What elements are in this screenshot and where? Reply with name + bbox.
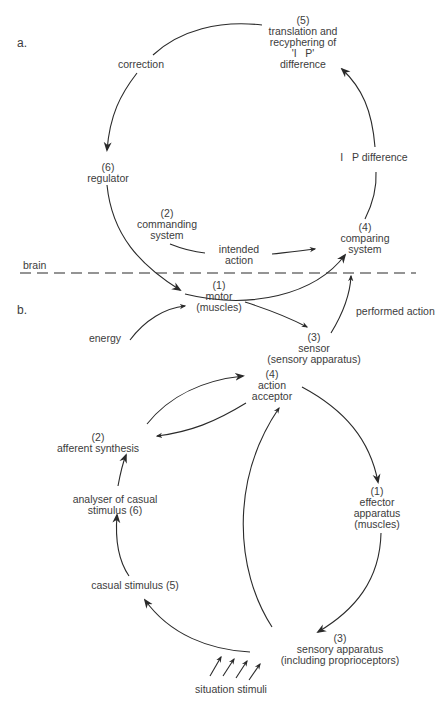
panel-b-label: b.	[17, 303, 27, 317]
arc-correction-to-regulator	[107, 73, 137, 150]
node-energy: energy	[89, 333, 121, 344]
arc-energy-to-motor	[130, 306, 185, 340]
node-motor: (1) motor (muscles)	[196, 280, 242, 313]
node-commanding-system: (2) commanding system	[137, 208, 197, 241]
stimulus-arrow-2	[223, 659, 234, 676]
arc-sensory-to-acceptor	[243, 408, 279, 627]
arc-commanding-to-intended	[170, 244, 205, 253]
node-action-acceptor: (4) action acceptor	[252, 369, 292, 402]
node-afferent-synthesis: (2) afferent synthesis	[57, 432, 139, 454]
node-brain: brain	[23, 260, 46, 271]
arc-casual-to-analyser	[116, 515, 129, 576]
stimulus-arrow-1	[210, 657, 221, 676]
arc-acceptor-to-effector	[302, 387, 378, 482]
node-sensor: (3) sensor (sensory apparatus)	[267, 332, 360, 365]
node-translation: (5) translation and recyphering of 'I P'…	[269, 15, 338, 70]
arc-comparing-to-ipdiff	[365, 172, 376, 219]
diagram-canvas	[0, 0, 444, 705]
arc-effector-to-sensory	[318, 533, 381, 632]
node-comparing-system: (4) comparing system	[340, 222, 389, 255]
node-ip-difference: I P difference	[340, 152, 407, 163]
node-casual-stimulus: casual stimulus (5)	[91, 580, 179, 591]
arc-sensor-to-comparing	[331, 276, 351, 333]
node-effector-apparatus: (1) effector apparatus (muscles)	[354, 486, 401, 530]
panel-a-label: a.	[17, 36, 27, 50]
node-regulator: (6) regulator	[87, 162, 128, 184]
arc-intended-to-comparing	[272, 249, 315, 254]
node-sensory-apparatus: (3) sensory apparatus (including proprio…	[281, 633, 399, 666]
stimulus-arrow-3	[236, 661, 247, 678]
arc-ipdiff-to-translation	[342, 69, 375, 147]
node-correction: correction	[118, 59, 164, 70]
arc-translation-to-correction	[153, 24, 262, 55]
node-situation-stimuli: situation stimuli	[195, 684, 267, 695]
stimulus-arrow-4	[249, 664, 260, 680]
arc-acceptor-to-afferent	[157, 403, 246, 436]
node-performed-action: performed action	[356, 306, 435, 317]
node-analyser: analyser of casual stimulus (6)	[73, 494, 158, 516]
arc-situation-to-casual	[145, 600, 250, 652]
arc-analyser-to-afferent	[118, 455, 126, 486]
arc-motor-to-sensor	[245, 302, 307, 327]
arc-afferent-to-acceptor	[147, 376, 243, 424]
node-intended-action: intended action	[219, 244, 259, 266]
